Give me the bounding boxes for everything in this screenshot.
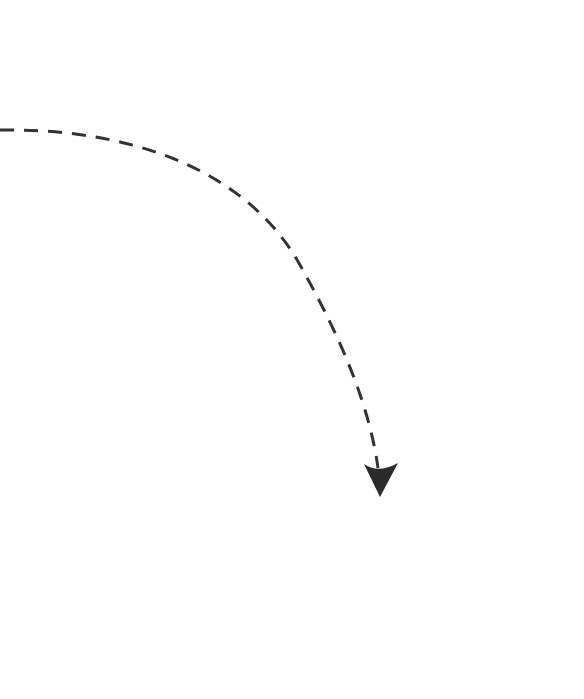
background	[0, 0, 584, 699]
diagram-canvas	[0, 0, 584, 699]
